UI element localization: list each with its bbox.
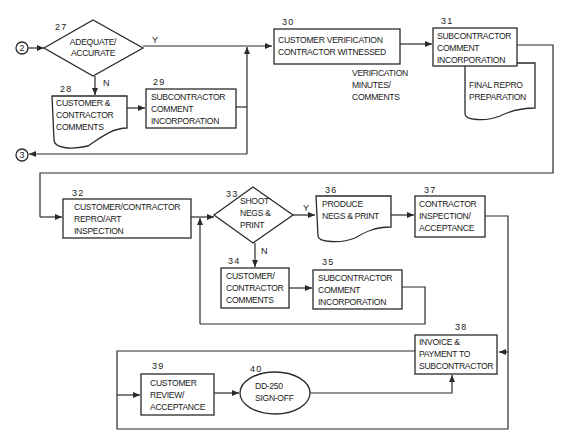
node-37-line-1: CONTRACTOR (419, 199, 477, 209)
node-39-line-1: CUSTOMER (150, 378, 197, 388)
node-33-line-3: PRINT (240, 220, 265, 230)
flowchart-canvas: 2 27 ADEQUATE/ ACCURATE Y N 28 CUSTOMER … (0, 0, 563, 447)
node-34-number: 34 (228, 256, 240, 266)
node-31-doc-line-1: FINAL REPRO (469, 80, 523, 90)
node-32-line-1: CUSTOMER/CONTRACTOR (74, 202, 180, 212)
node-32-number: 32 (72, 188, 84, 198)
connector-3-label: 3 (19, 150, 24, 160)
node-40-terminator: 40 DD-250 SIGN-OFF (240, 364, 310, 414)
connector-2: 2 (16, 42, 28, 54)
node-33-number: 33 (226, 189, 238, 199)
node-35-number: 35 (322, 257, 334, 267)
node-32-line-3: INSPECTION (74, 226, 124, 236)
node-36-line-1: PRODUCE (322, 199, 363, 209)
node-39-line-2: REVIEW/ (150, 390, 185, 400)
node-31-doc-line-2: PREPARATION (469, 92, 526, 102)
node-35-process: 35 SUBCONTRACTOR COMMENT INCORPORATION (313, 257, 402, 309)
node-28-line-2: CONTRACTOR (56, 110, 114, 120)
node-37-line-2: INSPECTION/ (419, 211, 472, 221)
node-33-line-2: NEGS & (240, 208, 271, 218)
node-31-number: 31 (441, 16, 453, 26)
node-38-line-3: SUBCONTRACTOR (419, 361, 493, 371)
note-30-line-2: MINUTES/ (352, 80, 392, 90)
node-37-process: 37 CONTRACTOR INSPECTION/ ACCEPTANCE (415, 185, 485, 237)
node-33-decision: 33 SHOOT NEGS & PRINT (214, 187, 293, 243)
node-36-document: 36 PRODUCE NEGS & PRINT (316, 185, 391, 242)
node-40-line-1: DD-250 (255, 381, 283, 391)
node-40-line-2: SIGN-OFF (255, 393, 294, 403)
node-38-process: 38 INVOICE & PAYMENT TO SUBCONTRACTOR (415, 322, 497, 374)
node-36-number: 36 (325, 185, 337, 195)
node-39-line-3: ACCEPTANCE (150, 402, 206, 412)
node-34-line-1: CUSTOMER/ (226, 271, 276, 281)
node-31-document: FINAL REPRO PREPARATION (465, 63, 535, 120)
node-31-process: 31 SUBCONTRACTOR COMMENT INCORPORATION (433, 16, 517, 66)
node-30-line-2: CONTRACTOR WITNESSED (278, 47, 386, 57)
node-30-note: VERIFICATION MINUTES/ COMMENTS (352, 68, 408, 102)
node-38-line-2: PAYMENT TO (419, 349, 471, 359)
node-32-process: 32 CUSTOMER/CONTRACTOR REPRO/ART INSPECT… (63, 188, 191, 238)
node-39-process: 39 CUSTOMER REVIEW/ ACCEPTANCE (141, 361, 214, 415)
edge-label-27-yes: Y (152, 35, 158, 45)
node-29-line-2: COMMENT (151, 104, 194, 114)
node-39-number: 39 (152, 361, 164, 371)
node-34-line-3: COMMENTS (226, 295, 274, 305)
node-30-process: 30 CUSTOMER VERIFICATION CONTRACTOR WITN… (274, 17, 400, 64)
node-34-line-2: CONTRACTOR (226, 283, 284, 293)
edge-label-33-no: N (261, 246, 268, 256)
connector-2-label: 2 (19, 43, 24, 53)
node-27-line-2: ACCURATE (71, 48, 116, 58)
node-28-number: 28 (60, 84, 72, 94)
node-31-line-2: COMMENT (437, 43, 480, 53)
node-37-number: 37 (424, 185, 436, 195)
node-29-number: 29 (153, 77, 165, 87)
node-29-process: 29 SUBCONTRACTOR COMMENT INCORPORATION (146, 77, 236, 128)
note-30-line-3: COMMENTS (352, 92, 400, 102)
node-36-line-2: NEGS & PRINT (322, 211, 380, 221)
node-38-line-1: INVOICE & (419, 337, 460, 347)
arrow-40-to-38 (310, 375, 452, 393)
node-28-line-1: CUSTOMER & (56, 98, 111, 108)
node-35-line-3: INCORPORATION (318, 297, 386, 307)
node-29-line-3: INCORPORATION (151, 116, 219, 126)
node-27-line-1: ADEQUATE/ (70, 37, 117, 47)
node-35-line-2: COMMENT (318, 285, 361, 295)
node-40-number: 40 (250, 364, 262, 374)
node-32-line-2: REPRO/ART (74, 214, 122, 224)
node-37-line-3: ACCEPTANCE (419, 223, 475, 233)
edge-label-27-no: N (103, 78, 110, 88)
edge-label-33-yes: Y (303, 203, 309, 213)
node-30-line-1: CUSTOMER VERIFICATION (278, 35, 383, 45)
node-38-number: 38 (455, 322, 467, 332)
node-29-line-1: SUBCONTRACTOR (151, 92, 225, 102)
node-30-number: 30 (282, 17, 294, 27)
node-33-line-1: SHOOT (240, 196, 270, 206)
node-31-line-3: INCORPORATION (437, 55, 505, 65)
node-35-line-1: SUBCONTRACTOR (318, 273, 392, 283)
node-28-line-3: COMMENTS (56, 122, 104, 132)
note-30-line-1: VERIFICATION (352, 68, 408, 78)
node-31-line-1: SUBCONTRACTOR (437, 31, 511, 41)
node-28-document: 28 CUSTOMER & CONTRACTOR COMMENTS (52, 84, 127, 148)
connector-3: 3 (16, 149, 28, 161)
node-27-decision: 27 ADEQUATE/ ACCURATE (44, 20, 143, 76)
node-27-number: 27 (55, 22, 67, 32)
